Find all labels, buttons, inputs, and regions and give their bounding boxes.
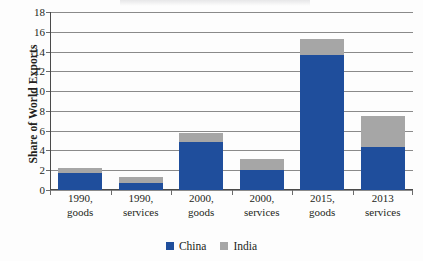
y-tick-label: 2 [40, 164, 46, 176]
legend-swatch-india-icon [220, 242, 228, 250]
bar-segment-india[interactable] [361, 116, 405, 147]
bar-slot [353, 12, 414, 190]
chart-legend: ChinaIndia [0, 240, 423, 252]
y-axis-title: Share of World Exports [27, 19, 39, 189]
bar-segment-china[interactable] [361, 147, 405, 191]
y-tick-label: 6 [40, 125, 46, 137]
bar-segment-india[interactable] [300, 39, 344, 55]
chart-figure: Share of World Exports 181614121086420 1… [0, 0, 423, 261]
x-axis-label-line: 2000, [171, 192, 232, 206]
x-axis-label-line: goods [171, 206, 232, 220]
y-tick-label: 14 [34, 46, 45, 58]
stacked-bar[interactable] [240, 159, 284, 190]
x-axis-label-line: services [111, 206, 172, 220]
x-axis-label-line: 2015, [292, 192, 353, 206]
x-axis-label: 2000,services [232, 192, 293, 232]
y-tick-label: 18 [34, 6, 45, 18]
bar-segment-china[interactable] [240, 170, 284, 190]
stacked-bar[interactable] [179, 133, 223, 190]
bar-segment-china[interactable] [300, 55, 344, 190]
x-axis-label: 2013services [353, 192, 414, 232]
x-axis-labels: 1990,goods1990,services2000,goods2000,se… [50, 192, 413, 232]
bar-slot [232, 12, 293, 190]
x-axis-label-line: services [232, 206, 293, 220]
y-tick-label: 4 [40, 144, 46, 156]
x-axis-label-line: 1990, [50, 192, 111, 206]
bar-segment-china[interactable] [179, 142, 223, 190]
x-axis-label-line: services [353, 206, 414, 220]
bar-segment-china[interactable] [58, 173, 102, 190]
x-axis-label: 1990,goods [50, 192, 111, 232]
x-axis-label-line: 1990, [111, 192, 172, 206]
bar-group [50, 12, 413, 190]
x-axis-label: 2000,goods [171, 192, 232, 232]
legend-swatch-china-icon [166, 242, 174, 250]
y-tick-label: 8 [40, 105, 46, 117]
stacked-bar[interactable] [300, 39, 344, 190]
cropped-title-remnant [120, 0, 310, 6]
y-tick-label: 12 [34, 65, 45, 77]
y-tick-label: 10 [34, 85, 45, 97]
legend-label: China [179, 240, 206, 252]
x-axis-label: 2015,goods [292, 192, 353, 232]
bar-segment-india[interactable] [179, 133, 223, 142]
legend-item[interactable]: India [220, 240, 257, 252]
x-axis-label-line: goods [50, 206, 111, 220]
legend-item[interactable]: China [166, 240, 206, 252]
y-tick-label: 0 [40, 184, 46, 196]
bar-slot [50, 12, 111, 190]
x-axis-label-line: goods [292, 206, 353, 220]
bar-slot [292, 12, 353, 190]
x-axis-label-line: 2000, [232, 192, 293, 206]
bar-segment-india[interactable] [240, 159, 284, 170]
bar-segment-china[interactable] [119, 183, 163, 190]
y-tick-label: 16 [34, 26, 45, 38]
stacked-bar[interactable] [58, 168, 102, 190]
bar-slot [111, 12, 172, 190]
plot-area: 181614121086420 [50, 12, 413, 190]
stacked-bar[interactable] [119, 177, 163, 190]
bar-slot [171, 12, 232, 190]
x-axis-label: 1990,services [111, 192, 172, 232]
legend-label: India [233, 240, 257, 252]
stacked-bar[interactable] [361, 116, 405, 190]
x-axis-label-line: 2013 [353, 192, 414, 206]
